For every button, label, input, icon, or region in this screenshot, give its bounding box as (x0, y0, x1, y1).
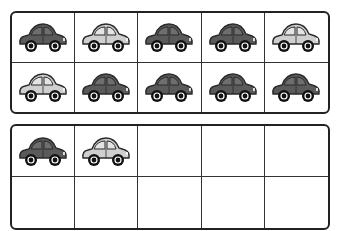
ten-frame-cell (12, 63, 75, 113)
light-car-icon (79, 134, 133, 168)
top-ten-frame (10, 11, 330, 114)
ten-frame-cell (75, 13, 138, 63)
ten-frame-cell (12, 177, 75, 228)
dark-car-icon (269, 70, 323, 104)
ten-frame-cell (202, 177, 265, 228)
ten-frame-cell (202, 13, 265, 63)
ten-frame-cell (202, 63, 265, 113)
ten-frame-cell (202, 126, 265, 177)
dark-car-icon (142, 70, 196, 104)
light-car-icon (269, 20, 323, 54)
ten-frame-cell (265, 63, 328, 113)
ten-frame-cell (138, 177, 201, 228)
ten-frame-cell (265, 126, 328, 177)
dark-car-icon (79, 70, 133, 104)
bottom-ten-frame (10, 124, 330, 230)
light-car-icon (79, 20, 133, 54)
ten-frame-cell (12, 126, 75, 177)
ten-frame-cell (138, 13, 201, 63)
ten-frame-cell (75, 126, 138, 177)
dark-car-icon (142, 20, 196, 54)
dark-car-icon (16, 134, 70, 168)
dark-car-icon (16, 20, 70, 54)
ten-frame-cell (12, 13, 75, 63)
ten-frame-cell (265, 177, 328, 228)
ten-frame-cell (75, 63, 138, 113)
dark-car-icon (206, 20, 260, 54)
light-car-icon (16, 70, 70, 104)
dark-car-icon (206, 70, 260, 104)
ten-frame-cell (75, 177, 138, 228)
ten-frame-cell (265, 13, 328, 63)
ten-frame-cell (138, 126, 201, 177)
ten-frame-cell (138, 63, 201, 113)
